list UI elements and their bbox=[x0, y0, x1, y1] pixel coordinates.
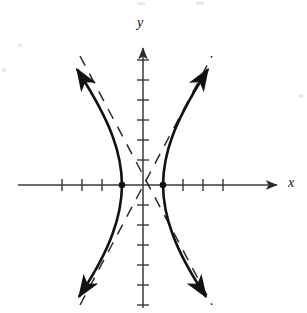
scan-speck bbox=[18, 44, 22, 47]
scan-speck bbox=[2, 68, 6, 72]
scan-speck bbox=[196, 2, 204, 5]
hyperbola-figure: y x bbox=[0, 0, 307, 313]
y-axis-label: y bbox=[137, 16, 143, 30]
branch-right-upper bbox=[163, 70, 208, 185]
vertex-dot-left bbox=[119, 182, 126, 189]
branch-right-lower bbox=[163, 185, 206, 296]
scan-speck bbox=[299, 94, 303, 98]
x-axis-label: x bbox=[288, 176, 294, 190]
branch-left-upper bbox=[78, 70, 123, 185]
vertex-dot-right bbox=[160, 182, 167, 189]
scan-speck bbox=[137, 2, 145, 5]
branch-left-lower bbox=[80, 185, 123, 296]
graph-canvas bbox=[0, 0, 307, 313]
